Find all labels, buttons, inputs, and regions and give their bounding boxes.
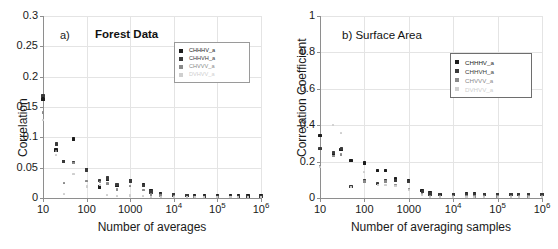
x-tick-mark bbox=[43, 199, 44, 202]
legend-marker-icon bbox=[455, 69, 459, 73]
y-tick-mark bbox=[317, 52, 320, 53]
y-tick-label: 0.2 bbox=[275, 155, 315, 167]
data-point bbox=[62, 160, 65, 163]
x-tick-mark bbox=[217, 199, 218, 202]
panel-tag-a: a) bbox=[60, 29, 70, 41]
figure-container: Correlation Number of averages a) Forest… bbox=[0, 0, 558, 249]
gridline-horizontal bbox=[43, 16, 261, 17]
gridline-horizontal bbox=[320, 162, 542, 163]
x-tick-label: 106 bbox=[241, 203, 281, 215]
legend-label: CHHVH_a bbox=[465, 68, 494, 75]
legend-b: CHHHV_aCHHVH_aCHVVV_aDVHVV_a bbox=[450, 53, 532, 98]
y-axis-line bbox=[43, 16, 44, 199]
gridline-vertical bbox=[542, 16, 543, 198]
data-point bbox=[541, 196, 543, 198]
x-tick-label: 1000 bbox=[110, 203, 150, 215]
plot-area-b bbox=[320, 16, 542, 198]
legend-label: CHHHV_a bbox=[465, 59, 494, 66]
legend-marker-icon bbox=[179, 49, 183, 53]
data-point bbox=[384, 184, 386, 186]
data-point bbox=[518, 196, 520, 198]
data-point bbox=[340, 153, 342, 155]
data-point bbox=[497, 196, 499, 198]
data-point bbox=[106, 194, 108, 196]
data-point bbox=[63, 193, 65, 195]
gridline-horizontal bbox=[43, 107, 261, 108]
data-point bbox=[318, 134, 321, 137]
legend-item: CHHVH_a bbox=[179, 55, 244, 62]
legend-label: DVHVV_a bbox=[465, 86, 493, 93]
y-tick-label: 0.1 bbox=[0, 130, 38, 142]
y-tick-label: 0 bbox=[275, 191, 315, 203]
data-point bbox=[363, 161, 366, 164]
data-point bbox=[247, 196, 249, 198]
x-tick-mark bbox=[320, 199, 321, 202]
x-tick-label: 105 bbox=[197, 203, 237, 215]
data-point bbox=[407, 180, 410, 183]
panel-title-a: Forest Data bbox=[95, 28, 158, 40]
legend-label: CHHVH_a bbox=[189, 55, 215, 62]
gridline-vertical bbox=[261, 16, 262, 198]
x-tick-mark bbox=[174, 199, 175, 202]
x-tick-mark bbox=[261, 199, 262, 202]
x-tick-label: 100 bbox=[344, 203, 384, 215]
x-tick-mark bbox=[453, 199, 454, 202]
x-tick-mark bbox=[364, 199, 365, 202]
data-point bbox=[376, 169, 379, 172]
legend-label: DVHVV_a bbox=[189, 71, 215, 78]
data-point bbox=[394, 179, 397, 182]
gridline-horizontal bbox=[320, 125, 542, 126]
data-point bbox=[99, 181, 101, 183]
legend-item: CHHHV_a bbox=[455, 58, 526, 66]
y-tick-mark bbox=[40, 107, 43, 108]
legend-marker-icon bbox=[179, 57, 183, 61]
y-tick-label: 1 bbox=[275, 9, 315, 21]
data-point bbox=[129, 194, 131, 196]
data-point bbox=[63, 182, 65, 184]
data-point bbox=[186, 196, 188, 198]
legend-label: CHHHV_a bbox=[189, 47, 215, 54]
gridline-horizontal bbox=[43, 137, 261, 138]
data-point bbox=[72, 137, 75, 140]
legend-marker-icon bbox=[455, 87, 459, 91]
data-point bbox=[55, 150, 57, 152]
y-tick-label: 0.4 bbox=[275, 118, 315, 130]
legend-label: CHVVV_a bbox=[465, 77, 493, 84]
data-point bbox=[72, 162, 74, 164]
data-point bbox=[72, 173, 74, 175]
data-point bbox=[452, 196, 454, 198]
y-tick-mark bbox=[317, 89, 320, 90]
data-point bbox=[319, 166, 321, 168]
x-tick-label: 104 bbox=[154, 203, 194, 215]
data-point bbox=[377, 184, 379, 186]
data-point bbox=[115, 183, 118, 186]
legend-marker-icon bbox=[179, 65, 183, 69]
legend-item: CHHHV_a bbox=[179, 47, 244, 54]
legend-item: CHVVV_a bbox=[179, 63, 244, 70]
x-tick-label: 10 bbox=[23, 203, 63, 215]
panel-surface-area: Correlation Coefficient Number of averag… bbox=[279, 0, 558, 249]
y-tick-mark bbox=[40, 137, 43, 138]
data-point bbox=[439, 196, 441, 198]
data-point bbox=[129, 179, 132, 182]
data-point bbox=[116, 195, 118, 197]
legend-label: CHVVV_a bbox=[189, 63, 215, 70]
data-point bbox=[142, 189, 144, 191]
data-point bbox=[349, 159, 352, 162]
y-tick-mark bbox=[40, 77, 43, 78]
data-point bbox=[194, 196, 196, 198]
y-tick-label: 0.6 bbox=[275, 82, 315, 94]
panel-forest-data: Correlation Number of averages a) Forest… bbox=[0, 0, 279, 249]
x-tick-label: 104 bbox=[433, 203, 473, 215]
data-point bbox=[106, 182, 108, 184]
y-axis-line bbox=[320, 16, 321, 199]
legend-item: DVHVV_a bbox=[179, 71, 244, 78]
data-point bbox=[229, 196, 231, 198]
y-tick-label: 0.15 bbox=[0, 100, 38, 112]
gridline-vertical bbox=[409, 16, 410, 198]
data-point bbox=[55, 142, 58, 145]
data-point bbox=[42, 119, 44, 121]
data-point bbox=[350, 186, 352, 188]
data-point bbox=[85, 168, 88, 171]
legend-marker-icon bbox=[179, 73, 183, 77]
